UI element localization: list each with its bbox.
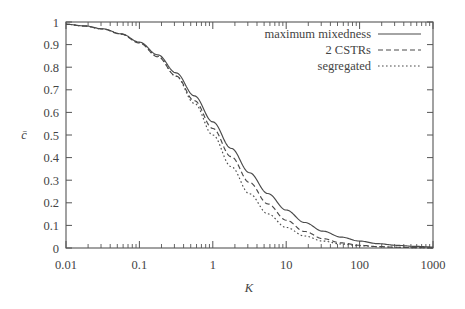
y-tick-label: 0.6 [43, 106, 59, 120]
y-tick-label: 0.2 [43, 196, 59, 210]
x-tick-label: 100 [350, 258, 369, 272]
curve-maximum-mixedness [66, 24, 433, 247]
y-axis-title: c̄ [21, 128, 28, 142]
y-tick-label: 0.4 [43, 151, 59, 165]
chart-legend: maximum mixedness2 CSTRssegregated [264, 27, 421, 73]
line-chart: 00.10.20.30.40.50.60.70.80.91 0.010.1110… [0, 0, 465, 309]
x-tick-label: 1000 [421, 258, 446, 272]
legend-label-1: 2 CSTRs [325, 43, 371, 57]
y-axis-tick-labels: 00.10.20.30.40.50.60.70.80.91 [43, 16, 59, 256]
chart-figure: 00.10.20.30.40.50.60.70.80.91 0.010.1110… [0, 0, 465, 309]
legend-label-2: segregated [318, 59, 372, 73]
curve-segregated [66, 24, 433, 248]
y-tick-label: 0.5 [43, 129, 59, 143]
y-tick-label: 1 [53, 16, 59, 30]
data-curves [66, 24, 433, 248]
x-axis-tick-labels: 0.010.11101001000 [55, 258, 445, 272]
y-tick-label: 0.1 [43, 219, 59, 233]
y-tick-label: 0.3 [43, 174, 59, 188]
y-tick-label: 0.7 [43, 83, 59, 97]
curve-2-cstrs [66, 24, 433, 248]
axis-ticks [66, 22, 433, 248]
legend-label-0: maximum mixedness [264, 27, 371, 41]
plot-frame [66, 22, 433, 248]
y-tick-label: 0.9 [43, 38, 59, 52]
y-tick-label: 0 [53, 242, 59, 256]
x-tick-label: 1 [210, 258, 216, 272]
x-tick-label: 0.1 [132, 258, 148, 272]
y-tick-label: 0.8 [43, 61, 59, 75]
x-tick-label: 10 [280, 258, 293, 272]
x-tick-label: 0.01 [55, 258, 77, 272]
x-axis-title: K [244, 281, 254, 295]
